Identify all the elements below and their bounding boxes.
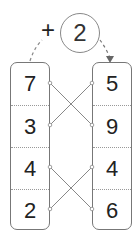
addend-value: 2	[73, 19, 86, 47]
right-number-column: 5 9 4 6	[92, 62, 132, 230]
right-cell: 6	[93, 189, 131, 231]
right-cell: 4	[93, 147, 131, 189]
left-cell: 3	[11, 105, 49, 147]
left-number-column: 7 3 4 2	[10, 62, 50, 230]
operator-symbol: +	[41, 18, 55, 42]
left-cell: 2	[11, 189, 49, 231]
left-cell: 7	[11, 63, 49, 105]
addend-circle: 2	[60, 13, 100, 53]
left-cell: 4	[11, 147, 49, 189]
right-cell: 5	[93, 63, 131, 105]
dashed-arrow-out	[100, 40, 110, 58]
dashed-arrow-in	[30, 40, 42, 61]
right-cell: 9	[93, 105, 131, 147]
